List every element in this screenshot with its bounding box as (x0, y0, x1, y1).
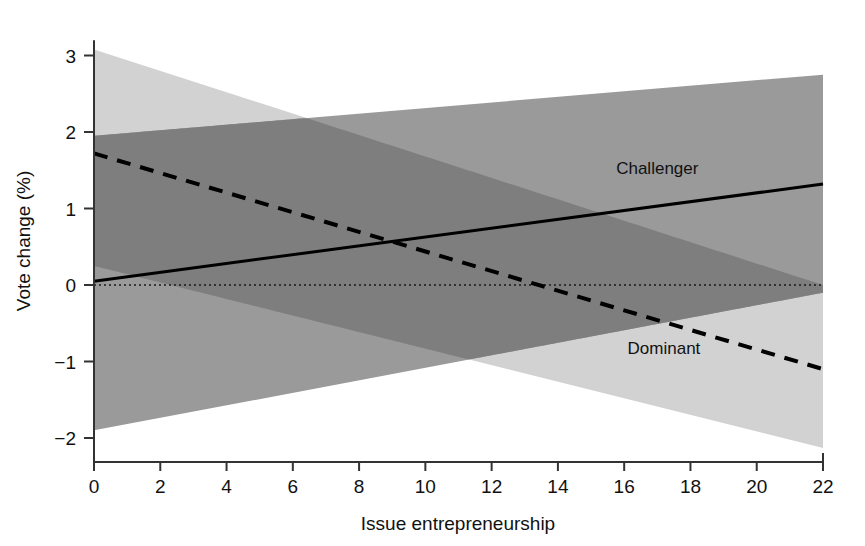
x-tick-label-20: 20 (746, 476, 767, 497)
y-tick-label--2: −2 (54, 428, 76, 449)
x-axis-tick-labels: 0246810121416182022 (89, 476, 834, 497)
y-tick-label-3: 3 (65, 46, 76, 67)
x-tick-label-12: 12 (481, 476, 502, 497)
x-tick-label-14: 14 (547, 476, 569, 497)
x-axis-ticks (94, 462, 823, 471)
y-axis-tick-labels: 3210−1−2 (54, 46, 76, 450)
challenger-series-label: Challenger (616, 159, 699, 178)
x-tick-label-0: 0 (89, 476, 100, 497)
x-tick-label-18: 18 (680, 476, 701, 497)
x-tick-label-4: 4 (221, 476, 232, 497)
x-axis-line (94, 453, 823, 462)
y-tick-label--1: −1 (54, 352, 76, 373)
dominant-series-label: Dominant (628, 339, 701, 358)
x-tick-label-8: 8 (354, 476, 365, 497)
x-tick-label-2: 2 (155, 476, 166, 497)
x-tick-label-6: 6 (288, 476, 299, 497)
confidence-bands (94, 49, 823, 448)
x-axis-title: Issue entrepreneurship (361, 513, 555, 534)
y-axis-title: Vote change (%) (13, 171, 34, 311)
x-tick-label-10: 10 (415, 476, 436, 497)
x-tick-label-16: 16 (614, 476, 635, 497)
y-axis-ticks (84, 56, 94, 439)
x-tick-label-22: 22 (812, 476, 833, 497)
y-tick-label-2: 2 (65, 122, 76, 143)
chart-canvas: 0246810121416182022 3210−1−2 Issue entre… (0, 0, 865, 546)
chart-figure: 0246810121416182022 3210−1−2 Issue entre… (0, 0, 865, 546)
y-tick-label-1: 1 (65, 199, 76, 220)
y-tick-label-0: 0 (65, 275, 76, 296)
